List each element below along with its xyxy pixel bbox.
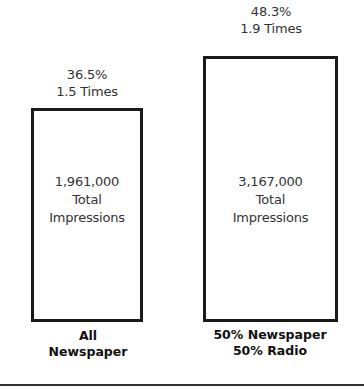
bar-2-value: 3,167,000	[206, 173, 335, 191]
bar-1-percent: 36.5%	[30, 66, 144, 83]
bar-1-category-line2: Newspaper	[20, 344, 156, 360]
bar-1-category-label: All Newspaper	[20, 328, 156, 360]
bar-all-newspaper: 1,961,000 Total Impressions	[31, 108, 143, 322]
bar-2-value-line2: Total	[206, 191, 335, 209]
bar-2-category-line2: 50% Radio	[195, 343, 345, 359]
bar-2-category-line1: 50% Newspaper	[195, 327, 345, 343]
bar-2-category-label: 50% Newspaper 50% Radio	[195, 327, 345, 359]
bar-newspaper-radio: 3,167,000 Total Impressions	[203, 56, 338, 322]
bar-1-frequency: 1.5 Times	[30, 83, 144, 100]
bar-1-value-line2: Total	[34, 191, 140, 209]
bar-1-annotation: 36.5% 1.5 Times	[30, 66, 144, 100]
bar-1-value-label: 1,961,000 Total Impressions	[34, 173, 140, 227]
bar-1-value: 1,961,000	[34, 173, 140, 191]
bar-2-percent: 48.3%	[212, 3, 330, 20]
bottom-rule	[0, 384, 364, 386]
bar-2-annotation: 48.3% 1.9 Times	[212, 3, 330, 37]
impressions-bar-chart: 36.5% 1.5 Times 1,961,000 Total Impressi…	[0, 0, 364, 390]
bar-2-frequency: 1.9 Times	[212, 20, 330, 37]
bar-2-value-line3: Impressions	[206, 209, 335, 227]
bar-1-category-line1: All	[20, 328, 156, 344]
bar-1-value-line3: Impressions	[34, 209, 140, 227]
bar-2-value-label: 3,167,000 Total Impressions	[206, 173, 335, 227]
